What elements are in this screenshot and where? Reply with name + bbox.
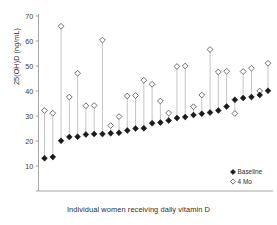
data-point-4mo — [207, 47, 213, 53]
data-point-4mo — [124, 93, 130, 99]
data-point-4mo — [75, 70, 81, 76]
data-point-4mo — [249, 65, 255, 71]
data-point-4mo — [224, 68, 230, 74]
y-axis-tick-label: 40 — [25, 87, 33, 96]
data-point-baseline — [42, 155, 48, 161]
data-point-4mo — [91, 103, 97, 109]
data-point-baseline — [108, 130, 114, 136]
data-point-baseline — [199, 111, 205, 117]
data-point-4mo — [182, 63, 188, 69]
data-point-4mo — [166, 110, 172, 116]
data-point-baseline — [124, 128, 130, 134]
data-point-4mo — [232, 111, 238, 117]
legend-label: Baseline — [238, 168, 263, 175]
data-point-4mo — [240, 69, 246, 75]
x-axis-label: Individual women receiving daily vitamin… — [0, 205, 277, 214]
data-point-baseline — [58, 138, 64, 144]
data-point-4mo — [50, 110, 56, 116]
data-point-baseline — [91, 131, 97, 137]
data-point-baseline — [182, 114, 188, 120]
y-axis-tick-label: 70 — [25, 12, 33, 21]
data-point-baseline — [215, 108, 221, 114]
legend-marker — [230, 179, 235, 184]
data-point-4mo — [66, 94, 72, 100]
data-point-4mo — [100, 37, 106, 43]
data-point-baseline — [249, 94, 255, 100]
data-point-baseline — [166, 118, 172, 124]
y-axis-tick-label: 30 — [25, 112, 33, 121]
data-point-4mo — [42, 108, 48, 114]
data-point-4mo — [191, 104, 197, 110]
data-point-4mo — [215, 69, 221, 75]
data-point-4mo — [265, 60, 271, 66]
data-point-baseline — [157, 120, 163, 126]
data-point-baseline — [116, 130, 122, 136]
data-point-4mo — [108, 123, 114, 129]
legend-marker — [230, 169, 235, 174]
data-point-4mo — [83, 103, 89, 109]
data-point-4mo — [116, 114, 122, 120]
data-point-baseline — [100, 131, 106, 137]
data-point-4mo — [157, 98, 163, 104]
data-point-baseline — [75, 134, 81, 140]
data-point-4mo — [199, 92, 205, 98]
y-axis-tick-label: 50 — [25, 62, 33, 71]
data-point-4mo — [141, 77, 147, 83]
y-axis-tick-label: 10 — [25, 162, 33, 171]
data-point-4mo — [58, 23, 64, 29]
chart-plot-area: 10203040506070Baseline4 Mo — [0, 0, 277, 225]
data-point-baseline — [224, 104, 230, 110]
data-point-baseline — [257, 92, 263, 98]
data-point-baseline — [149, 120, 155, 126]
data-point-4mo — [149, 81, 155, 87]
data-point-baseline — [174, 115, 180, 121]
data-point-baseline — [265, 88, 271, 94]
data-point-4mo — [174, 64, 180, 70]
data-point-baseline — [191, 112, 197, 118]
data-point-baseline — [83, 132, 89, 138]
data-point-baseline — [66, 134, 72, 140]
chart-container: 25(OH)D (ng/mL) 10203040506070Baseline4 … — [0, 0, 277, 225]
data-point-baseline — [240, 95, 246, 101]
data-point-baseline — [133, 126, 139, 132]
data-point-baseline — [50, 154, 56, 160]
y-axis-tick-label: 20 — [25, 137, 33, 146]
data-point-baseline — [207, 110, 213, 116]
legend-label: 4 Mo — [238, 178, 253, 185]
data-point-baseline — [141, 125, 147, 131]
data-point-baseline — [232, 97, 238, 103]
y-axis-tick-label: 60 — [25, 37, 33, 46]
data-point-4mo — [133, 93, 139, 99]
